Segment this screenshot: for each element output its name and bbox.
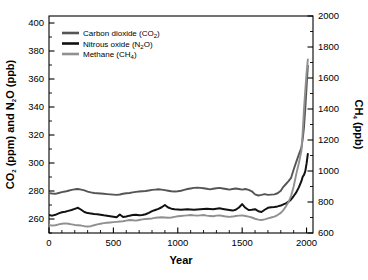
y-left-axis-title: CO2 (ppm) and N2O (ppb) [4,59,17,189]
x-tick-label: 1500 [232,237,253,248]
y-left-tick-label: 340 [28,101,44,112]
y-right-tick-label: 1800 [318,41,339,52]
x-axis-title: Year [169,254,193,266]
y-left-tick-label: 300 [28,157,44,168]
series-line-ch4 [49,59,308,226]
series-line-co2 [49,66,308,196]
x-tick-label: 2000 [296,237,317,248]
y-right-tick-label: 1400 [318,103,339,114]
y-left-tick-label: 280 [28,185,44,196]
x-tick-label: 0 [46,237,51,248]
y-left-tick-label: 360 [28,73,44,84]
y-right-tick-label: 2000 [318,10,339,21]
y-left-tick-label: 380 [28,45,44,56]
legend-label-co2: Carbon dioxide (CO2) [83,29,160,39]
plot-frame [49,16,313,233]
x-tick-label: 500 [105,237,121,248]
y-right-tick-label: 600 [318,227,334,238]
y-right-tick-label: 1600 [318,72,339,83]
legend-label-ch4: Methane (CH4) [83,50,137,60]
x-tick-label: 1000 [167,237,188,248]
y-right-tick-label: 800 [318,196,334,207]
series-line-n2o [49,154,308,217]
y-right-tick-label: 1000 [318,165,339,176]
greenhouse-gas-line-chart: 0500100015002000260280300320340360380400… [0,0,368,280]
y-left-tick-label: 400 [28,17,44,28]
y-left-tick-label: 260 [28,213,44,224]
y-left-tick-label: 320 [28,129,44,140]
y-right-axis-title: CH4 (ppb) [352,100,365,150]
legend-label-n2o: Nitrous oxide (N2O) [83,40,153,50]
chart-figure: 0500100015002000260280300320340360380400… [0,0,368,280]
y-right-tick-label: 1200 [318,134,339,145]
